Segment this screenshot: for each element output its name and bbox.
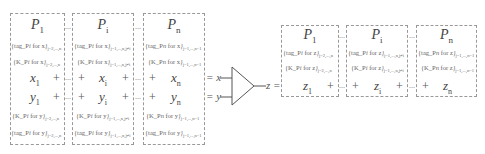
left-box-i-plus-y-right: + <box>122 90 129 105</box>
right-box-1-z: z1 <box>303 78 312 96</box>
right-box-n-plus: + <box>422 79 429 94</box>
left-box-1-plus-x: + <box>53 71 60 86</box>
left-box-n-tag-x: {tag_Pn for x}j=1,...,n−1 <box>145 42 202 51</box>
left-box-n-tag-y: {tag_Pn for y}j=1,...,n−1 <box>145 129 202 138</box>
right-box-n-k-z: {K_Pn for z}j=1,...,n−1 <box>421 64 474 73</box>
right-box-i-plus-right: + <box>396 79 403 94</box>
ellipsis-r2-z: ... <box>409 81 415 90</box>
left-box-1-tag-x: {tag_Pi for x}j=2,...,n <box>11 42 61 51</box>
left-box-i-y: yi <box>99 89 107 107</box>
left-box-i-tag-y: {tag_Pi for y}j=1,...,n,j≠i <box>74 129 130 138</box>
right-box-1-tag-z: {tag_Pi for z}j=2,...,n <box>283 49 333 58</box>
left-box-1-plus-y: + <box>53 90 60 105</box>
left-box-n-k-y: {K_Pn for y}j=1,...,n−1 <box>146 112 199 121</box>
eq-y-label: = y <box>206 90 221 102</box>
left-box-1-x: x1 <box>30 70 40 88</box>
ellipsis-2: ... <box>135 22 141 31</box>
right-box-i-z: zi <box>374 78 381 96</box>
ellipsis-r2: ... <box>409 31 415 40</box>
ellipsis-1-x: ... <box>65 73 71 82</box>
left-box-i-tag-x: {tag_Pi for x}j=1,...,n,j≠i <box>74 42 130 51</box>
right-box-1-plus: + <box>327 79 334 94</box>
left-box-1-title: P1 <box>10 17 65 35</box>
right-box-1-title: P1 <box>281 27 339 45</box>
right-box-i-title: Pi <box>346 27 408 45</box>
left-box-1-y: y1 <box>30 89 40 107</box>
z-eq-label: z = <box>266 79 280 91</box>
right-box-n-z: zn <box>443 78 452 96</box>
ellipsis-r1: ... <box>339 31 345 40</box>
triangle-gate-icon <box>220 67 266 105</box>
right-box-i-k-z: {K_Pi for z}j=1,...,n,j≠i <box>351 64 404 73</box>
left-box-i-plus-x-right: + <box>122 71 129 86</box>
right-box-i-tag-z: {tag_Pi for z}j=1,...,n,j≠i <box>348 49 404 58</box>
left-box-1-k-x: {K_Pi for x}j=2,...,n <box>13 58 60 67</box>
ellipsis-r1-z: ... <box>339 81 345 90</box>
left-box-n-x: xn <box>171 70 181 88</box>
ellipsis-2-x: ... <box>135 73 141 82</box>
right-box-1-k-z: {K_Pi for z}j=2,...,n <box>285 64 332 73</box>
ellipsis-1-y: ... <box>65 92 71 101</box>
left-box-n-title: Pn <box>143 17 205 35</box>
ellipsis-2-y: ... <box>135 92 141 101</box>
left-box-i-plus-y-left: + <box>78 90 85 105</box>
right-box-n-title: Pn <box>416 27 477 45</box>
eq-x-label: = x <box>206 71 221 83</box>
right-box-n-tag-z: {tag_Pn for z}j=1,...,n−1 <box>418 49 474 58</box>
left-box-i-k-x: {K_Pi for x}j=1,...,n,j≠i <box>77 58 130 67</box>
left-box-i-x: xi <box>99 70 107 88</box>
left-box-1-tag-y: {tag_Pi for y}j=2,...,n <box>11 129 61 138</box>
right-box-i-plus-left: + <box>352 79 359 94</box>
left-box-i-title: Pi <box>72 17 134 35</box>
left-box-n-y: yn <box>171 89 181 107</box>
ellipsis-1: ... <box>65 22 71 31</box>
left-box-n-k-x: {K_Pn for x}j=1,...,n−1 <box>148 58 201 67</box>
left-box-n-plus-y: + <box>149 90 156 105</box>
left-box-i-plus-x-left: + <box>78 71 85 86</box>
left-box-1-k-y: {K_Pi for y}j=2,...,n <box>12 112 59 121</box>
left-box-i-k-y: {K_Pi for y}j=1,...,n,j≠i <box>76 112 129 121</box>
left-box-n-plus-x: + <box>149 71 156 86</box>
